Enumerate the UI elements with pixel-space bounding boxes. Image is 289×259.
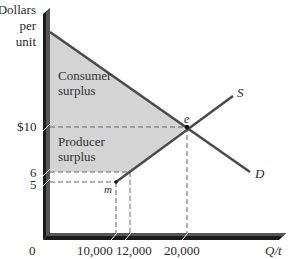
x-tick-20000: 20,000 xyxy=(164,244,200,258)
supply-curve-label: S xyxy=(237,86,244,100)
demand-curve-label: D xyxy=(255,167,264,181)
consumer-surplus-label: Consumer surplus xyxy=(58,68,111,98)
point-m xyxy=(114,180,118,184)
producer-surplus-label: Producer surplus xyxy=(58,134,105,164)
producer-surplus-label-line2: surplus xyxy=(58,149,105,164)
consumer-surplus-label-line2: surplus xyxy=(58,83,111,98)
point-m-label: m xyxy=(104,182,112,196)
consumer-surplus-label-line1: Consumer xyxy=(58,68,111,83)
supply-demand-chart xyxy=(0,0,289,259)
origin-label: 0 xyxy=(29,244,36,258)
y-tick-10: $10 xyxy=(17,120,37,134)
y-tick-5: 5 xyxy=(30,178,37,192)
x-axis-label: Q/t xyxy=(265,244,282,258)
x-axis-highlight xyxy=(47,233,286,236)
producer-surplus-label-line1: Producer xyxy=(58,134,105,149)
y-axis-highlight xyxy=(46,8,50,237)
x-tick-10000: 10,000 xyxy=(77,244,113,258)
equilibrium-label: e xyxy=(184,112,189,126)
x-tick-12000: 12,000 xyxy=(116,244,152,258)
